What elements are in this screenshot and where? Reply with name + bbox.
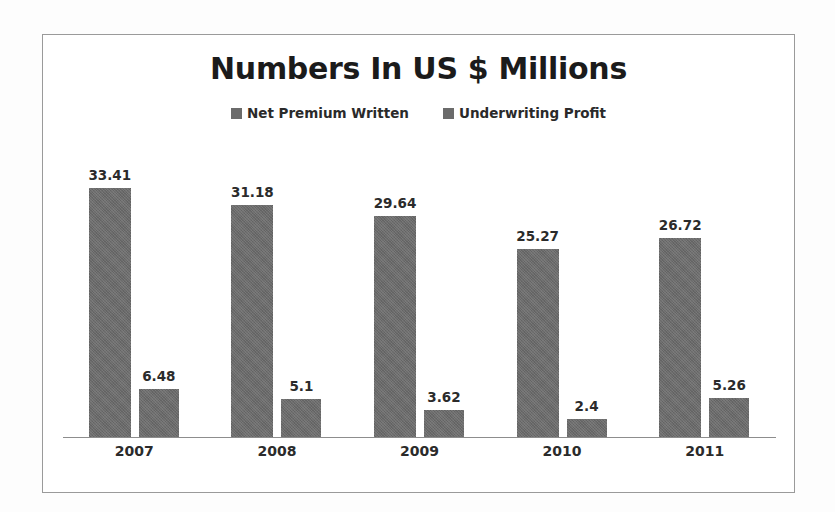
- bar-value-label: 26.72: [659, 217, 702, 233]
- bar-value-label: 31.18: [231, 184, 274, 200]
- bar-net-premium-written: [517, 249, 559, 437]
- bar-groups: 33.41 6.48 31.18 5.1: [63, 155, 776, 437]
- bar-net-premium-written: [374, 216, 416, 437]
- bar-wrap: 26.72: [659, 155, 701, 437]
- bar-value-label: 5.1: [289, 378, 313, 394]
- plot-area: 33.41 6.48 31.18 5.1: [63, 155, 776, 438]
- legend-item-net-premium-written: Net Premium Written: [231, 105, 409, 121]
- bar-net-premium-written: [659, 238, 701, 437]
- legend-label: Net Premium Written: [247, 105, 409, 121]
- bar-group: 31.18 5.1: [206, 155, 349, 437]
- bar-value-label: 5.26: [713, 377, 746, 393]
- x-tick-label: 2008: [206, 443, 349, 459]
- bar-net-premium-written: [231, 205, 273, 437]
- bar-underwriting-profit: [709, 398, 749, 437]
- bar-group: 26.72 5.26: [633, 155, 776, 437]
- bar-value-label: 25.27: [516, 228, 559, 244]
- bar-wrap: 5.1: [280, 155, 322, 437]
- bar-wrap: 5.26: [708, 155, 750, 437]
- bar-value-label: 33.41: [88, 167, 131, 183]
- x-axis-line: [63, 437, 776, 438]
- bar-wrap: 2.4: [566, 155, 608, 437]
- bar-value-label: 29.64: [374, 195, 417, 211]
- legend-label: Underwriting Profit: [459, 105, 606, 121]
- legend-swatch-icon: [443, 108, 454, 119]
- bar-wrap: 3.62: [423, 155, 465, 437]
- legend-swatch-icon: [231, 108, 242, 119]
- chart-legend: Net Premium Written Underwriting Profit: [43, 105, 794, 121]
- x-tick-label: 2011: [633, 443, 776, 459]
- x-axis-labels: 2007 2008 2009 2010 2011: [63, 443, 776, 459]
- bar-wrap: 31.18: [231, 155, 273, 437]
- bar-underwriting-profit: [567, 419, 607, 437]
- x-tick-label: 2007: [63, 443, 206, 459]
- bar-wrap: 33.41: [89, 155, 131, 437]
- x-tick-label: 2009: [348, 443, 491, 459]
- bar-group: 25.27 2.4: [491, 155, 634, 437]
- bar-wrap: 25.27: [517, 155, 559, 437]
- bar-value-label: 3.62: [427, 389, 460, 405]
- legend-item-underwriting-profit: Underwriting Profit: [443, 105, 606, 121]
- scanned-page: Numbers In US $ Millions Net Premium Wri…: [0, 0, 835, 512]
- bar-underwriting-profit: [424, 410, 464, 437]
- bar-value-label: 2.4: [575, 398, 599, 414]
- bar-underwriting-profit: [139, 389, 179, 437]
- bar-wrap: 6.48: [138, 155, 180, 437]
- bar-net-premium-written: [89, 188, 131, 437]
- x-tick-label: 2010: [491, 443, 634, 459]
- bar-group: 33.41 6.48: [63, 155, 206, 437]
- bar-group: 29.64 3.62: [348, 155, 491, 437]
- chart-frame: Numbers In US $ Millions Net Premium Wri…: [42, 34, 795, 493]
- bar-underwriting-profit: [281, 399, 321, 437]
- chart-title: Numbers In US $ Millions: [43, 51, 794, 86]
- bar-wrap: 29.64: [374, 155, 416, 437]
- bar-value-label: 6.48: [142, 368, 175, 384]
